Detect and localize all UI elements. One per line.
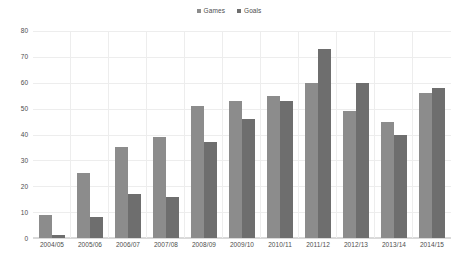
bar-goals[interactable] — [90, 217, 103, 238]
x-axis-tick-label: 2005/06 — [71, 242, 109, 249]
bar-group — [337, 31, 375, 238]
bar-goals[interactable] — [394, 135, 407, 239]
bar-games[interactable] — [343, 111, 356, 238]
y-axis-tick-label: 70 — [21, 54, 28, 61]
bar-group — [109, 31, 147, 238]
bar-games[interactable] — [153, 137, 166, 238]
bar-games[interactable] — [115, 147, 128, 238]
legend-label-goals: Goals — [244, 8, 261, 15]
bar-games[interactable] — [191, 106, 204, 238]
x-axis-tick-label: 2011/12 — [299, 242, 337, 249]
bar-goals[interactable] — [356, 83, 369, 238]
y-axis-tick-label: 10 — [21, 210, 28, 217]
y-axis-tick-label: 60 — [21, 80, 28, 87]
bar-group — [413, 31, 451, 238]
legend-label-games: Games — [204, 8, 225, 15]
bar-games[interactable] — [305, 83, 318, 238]
bar-group — [223, 31, 261, 238]
bar-goals[interactable] — [432, 88, 445, 238]
gridline: 0 — [33, 238, 451, 239]
y-axis-tick-label: 30 — [21, 158, 28, 165]
bar-goals[interactable] — [52, 235, 65, 238]
bar-games[interactable] — [419, 93, 432, 238]
y-axis-tick-label: 50 — [21, 106, 28, 113]
bar-group — [375, 31, 413, 238]
bar-games[interactable] — [267, 96, 280, 238]
y-axis-tick-label: 40 — [21, 132, 28, 139]
legend-swatch-games-icon — [197, 9, 201, 13]
bar-group — [299, 31, 337, 238]
bar-games[interactable] — [229, 101, 242, 238]
x-axis-tick-label: 2010/11 — [261, 242, 299, 249]
bar-games[interactable] — [381, 122, 394, 238]
x-axis-tick-label: 2004/05 — [33, 242, 71, 249]
y-axis-tick-label: 80 — [21, 28, 28, 35]
bar-goals[interactable] — [280, 101, 293, 238]
y-axis-tick-label: 0 — [24, 236, 28, 243]
bar-goals[interactable] — [318, 49, 331, 238]
bar-chart: Games Goals 01020304050607080 2004/05200… — [0, 0, 458, 261]
bar-group — [71, 31, 109, 238]
bar-group — [185, 31, 223, 238]
legend-item-goals[interactable]: Goals — [237, 8, 261, 15]
bar-goals[interactable] — [204, 142, 217, 238]
bar-groups — [33, 31, 451, 238]
plot-area: 01020304050607080 — [33, 31, 451, 238]
y-axis-tick-label: 20 — [21, 184, 28, 191]
bar-group — [147, 31, 185, 238]
bar-goals[interactable] — [166, 197, 179, 238]
x-axis-tick-label: 2006/07 — [109, 242, 147, 249]
x-axis-tick-label: 2013/14 — [375, 242, 413, 249]
x-axis-tick-label: 2009/10 — [223, 242, 261, 249]
x-axis-tick-label: 2014/15 — [413, 242, 451, 249]
x-axis-tick-label: 2007/08 — [147, 242, 185, 249]
x-axis-tick-label: 2012/13 — [337, 242, 375, 249]
bar-group — [33, 31, 71, 238]
bar-goals[interactable] — [128, 194, 141, 238]
bar-games[interactable] — [39, 215, 52, 238]
bar-goals[interactable] — [242, 119, 255, 238]
bar-games[interactable] — [77, 173, 90, 238]
legend-swatch-goals-icon — [237, 9, 241, 13]
x-axis-labels: 2004/052005/062006/072007/082008/092009/… — [33, 242, 451, 249]
bar-group — [261, 31, 299, 238]
chart-legend: Games Goals — [0, 8, 458, 15]
legend-item-games[interactable]: Games — [197, 8, 225, 15]
x-axis-tick-label: 2008/09 — [185, 242, 223, 249]
